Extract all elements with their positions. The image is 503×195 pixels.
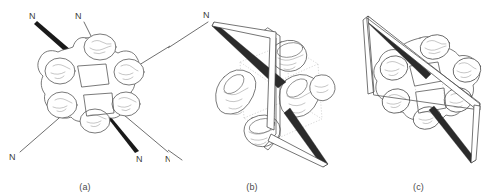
donor-vector-spear-upper-edge <box>363 16 374 94</box>
atom-label-n: N <box>203 10 210 20</box>
panel-b-drawing: N <box>168 0 336 172</box>
panel-c: (c) <box>334 0 503 195</box>
panel-b: N (b) <box>168 0 336 195</box>
panel-c-caption: (c) <box>334 181 503 193</box>
reference-line-b-lower <box>168 150 182 160</box>
atom-label-n: N <box>75 11 82 21</box>
lobe-a-2 <box>114 59 144 85</box>
lobe-a-5 <box>47 92 77 118</box>
atom-label-n: N <box>136 154 143 164</box>
lobe-a-1 <box>84 34 116 60</box>
panel-b-caption: (b) <box>168 181 336 193</box>
panel-a-caption: (a) <box>0 181 170 193</box>
atom-label-n: N <box>29 11 36 21</box>
donor-vector-spear-lower-outer <box>471 105 480 163</box>
lobe-b-2 <box>216 70 256 115</box>
reference-line-b-upper <box>168 22 208 48</box>
lobe-a-3 <box>112 92 140 116</box>
atom-label-n: N <box>9 152 16 162</box>
panel-a-drawing: N N N N N <box>0 0 170 172</box>
lobe-a-6 <box>45 58 75 84</box>
reference-lines-b <box>168 22 208 160</box>
panel-c-drawing <box>334 0 503 172</box>
panel-a: N N N N N (a) <box>0 0 170 195</box>
atom-labels-b: N <box>203 10 210 20</box>
figure-three-panel-molecular-views: N N N N N (a) <box>0 0 503 195</box>
lobe-a-4 <box>80 109 110 133</box>
lobe-b-5 <box>310 75 335 101</box>
